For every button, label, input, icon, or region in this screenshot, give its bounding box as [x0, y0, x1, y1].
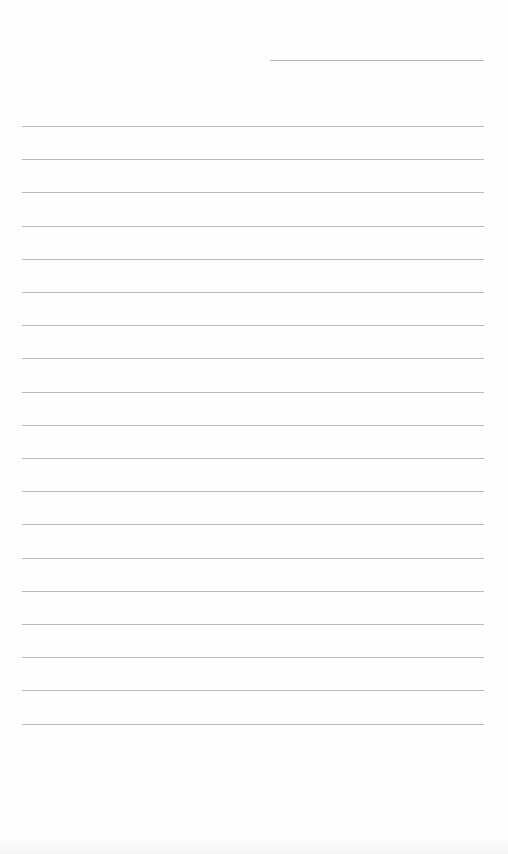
- ruled-line: [22, 458, 484, 459]
- header-rule: [270, 60, 484, 61]
- ruled-line: [22, 591, 484, 592]
- ruled-line: [22, 657, 484, 658]
- ruled-line: [22, 159, 484, 160]
- ruled-line: [22, 392, 484, 393]
- lined-paper-page: [0, 0, 508, 854]
- ruled-line: [22, 624, 484, 625]
- ruled-line: [22, 358, 484, 359]
- ruled-line: [22, 192, 484, 193]
- ruled-line: [22, 724, 484, 725]
- ruled-line: [22, 126, 484, 127]
- ruled-line: [22, 259, 484, 260]
- ruled-line: [22, 292, 484, 293]
- ruled-line: [22, 325, 484, 326]
- ruled-line: [22, 690, 484, 691]
- ruled-line: [22, 524, 484, 525]
- ruled-line: [22, 425, 484, 426]
- ruled-line: [22, 226, 484, 227]
- ruled-line: [22, 491, 484, 492]
- ruled-line: [22, 558, 484, 559]
- page-bottom-edge: [0, 836, 508, 854]
